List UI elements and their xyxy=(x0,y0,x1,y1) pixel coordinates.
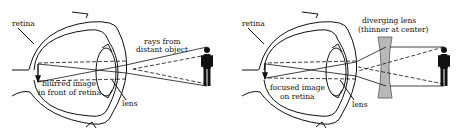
optic-nerve-lower-line xyxy=(12,92,30,97)
cornea-outline xyxy=(108,40,118,108)
ray-dashed-lower xyxy=(358,67,444,84)
ray-dashed-inner-1 xyxy=(266,61,356,63)
blurred-image-arrowhead xyxy=(36,76,40,81)
ray-solid-inner-2 xyxy=(38,64,126,73)
retina-label: retina xyxy=(242,20,265,28)
blurred-image-label-line2: in front of retina xyxy=(38,89,101,97)
distant-person-icon xyxy=(438,47,450,86)
ray-dashed-upper xyxy=(358,47,444,71)
retina-leader-line xyxy=(248,28,264,44)
blurred-image-label-line1: blurred image xyxy=(42,80,96,88)
retina-label: retina xyxy=(12,20,35,28)
myopic-eye-panel: retina rays from distant object blurred … xyxy=(0,0,232,133)
ray-dashed-inner-1 xyxy=(38,61,126,63)
corrected-eye-illustration xyxy=(230,0,465,133)
iris-lower xyxy=(332,90,342,98)
distant-person-icon xyxy=(201,47,213,86)
sclera-upper xyxy=(30,22,118,66)
rays-label-line2: distant object xyxy=(136,46,188,54)
lens-leader-line xyxy=(112,80,126,100)
focused-image-arrowhead xyxy=(263,73,267,78)
diverging-lens-label-line1: diverging lens xyxy=(362,17,416,25)
upper-eyelid xyxy=(72,12,88,18)
ray-solid-inner-2 xyxy=(266,64,356,76)
diverging-lens-label-line2: (thinner at center) xyxy=(358,26,429,34)
ray-dashed-upper xyxy=(133,55,207,69)
lens-label: lens xyxy=(122,100,138,108)
ray-dashed-inner-2 xyxy=(266,78,356,79)
retina-leader-line xyxy=(18,28,34,44)
lens-label: lens xyxy=(352,101,368,109)
diverging-lens xyxy=(378,37,392,98)
sclera-upper xyxy=(260,22,348,66)
ray-solid-lower xyxy=(126,73,207,86)
upper-eyelid xyxy=(302,12,318,18)
optic-nerve-lower-line xyxy=(242,92,260,97)
ray-dashed-lower xyxy=(133,69,207,84)
optic-nerve-upper-line xyxy=(242,66,260,70)
focused-image-label-line2: on retina xyxy=(280,93,314,101)
optic-nerve-upper-line xyxy=(12,66,30,70)
corrected-eye-panel: retina diverging lens (thinner at center… xyxy=(230,0,462,133)
iris-lower xyxy=(102,90,112,98)
focused-image-label-line1: focused image xyxy=(270,84,325,92)
